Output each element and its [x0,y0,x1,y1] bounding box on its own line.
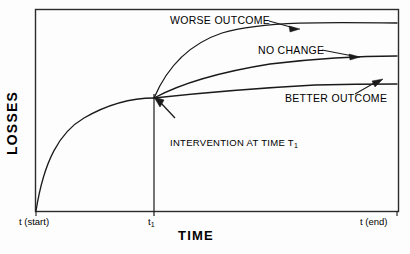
intervention-annotation: INTERVENTION AT TIME T1 [170,137,298,149]
y-axis-title: LOSSES [4,91,20,155]
xtick-label-start: t (start) [19,216,49,227]
branch-point-arrow-icon [154,97,175,118]
series-label-worse-outcome: WORSE OUTCOME [170,14,270,26]
x-axis-title: TIME [178,228,214,243]
series-worse-outcome [154,22,397,98]
xtick-label-mid-subscript: 1 [151,221,155,228]
series-label-no-change: NO CHANGE [258,44,324,56]
series-label-better-outcome: BETTER OUTCOME [285,92,387,104]
chart-figure: LOSSES TIME WORSE OUTCOME NO CHANGE BETT… [0,0,410,254]
xtick-label-end: t (end) [360,216,387,227]
series-baseline [36,98,154,211]
plot-frame [36,10,399,212]
intervention-annotation-text: INTERVENTION AT TIME T [170,137,294,148]
intervention-annotation-subscript: 1 [294,142,298,149]
chart-canvas [0,0,410,254]
xtick-label-mid: t1 [148,216,155,228]
